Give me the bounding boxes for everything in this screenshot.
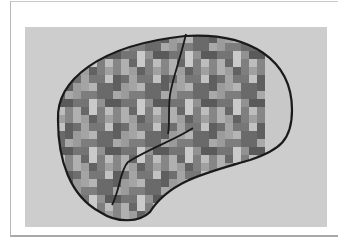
brain-figure: [0, 0, 340, 245]
activation-mosaic: [25, 27, 327, 227]
